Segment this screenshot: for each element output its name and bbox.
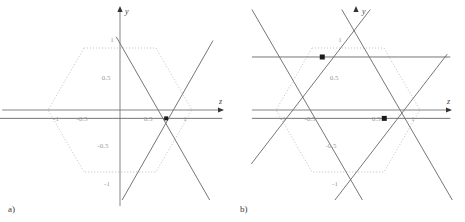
constraint-lines xyxy=(0,37,222,209)
intersection-point-lower xyxy=(382,116,387,121)
figure-svg: z-1-0.50.51y10.5-0.5-1a)z-1-0.50.51y10.5… xyxy=(0,0,465,222)
y-tick-label: -0.5 xyxy=(97,142,109,150)
line-positive-slope xyxy=(117,41,213,210)
panel-a: z-1-0.50.51y10.5-0.5-1a) xyxy=(0,6,224,214)
panel-b: z-1-0.50.51y10.5-0.5-1b) xyxy=(240,6,458,214)
x-tick-label: 1 xyxy=(411,115,415,123)
x-axis-arrow xyxy=(218,107,224,112)
x-tick-label: -0.5 xyxy=(76,115,88,123)
x-tick-label: -1 xyxy=(280,115,286,123)
figure-container: z-1-0.50.51y10.5-0.5-1a)z-1-0.50.51y10.5… xyxy=(0,0,465,222)
panel-label: a) xyxy=(8,204,15,214)
y-axis-name: y xyxy=(124,7,129,16)
line-negative-slope xyxy=(116,37,214,208)
y-tick-label: 0.5 xyxy=(102,74,111,82)
y-axis-name: y xyxy=(361,7,366,16)
x-tick-label: -1 xyxy=(53,115,59,123)
y-tick-label: -1 xyxy=(104,180,110,188)
line-pos-slope-1 xyxy=(251,10,370,164)
x-tick-label: 1 xyxy=(183,115,187,123)
y-tick-label: -1 xyxy=(332,180,338,188)
y-axis-arrow xyxy=(117,6,122,12)
line-pos-slope-2 xyxy=(327,54,447,210)
intersection-point xyxy=(164,116,168,120)
x-axis-arrow xyxy=(446,107,452,112)
x-tick-label: 0.5 xyxy=(372,115,381,123)
x-tick-label: -0.5 xyxy=(304,115,316,123)
y-tick-label: 1 xyxy=(338,36,342,44)
x-axis-name: z xyxy=(218,97,223,106)
panel-label: b) xyxy=(240,204,248,214)
y-tick-label: 1 xyxy=(110,36,114,44)
y-tick-label: -0.5 xyxy=(325,142,337,150)
x-axis-name: z xyxy=(446,97,451,106)
y-tick-label: 0.5 xyxy=(330,74,339,82)
x-tick-label: 0.5 xyxy=(144,115,153,123)
intersection-point-upper xyxy=(320,54,325,59)
y-axis-arrow xyxy=(353,6,358,12)
